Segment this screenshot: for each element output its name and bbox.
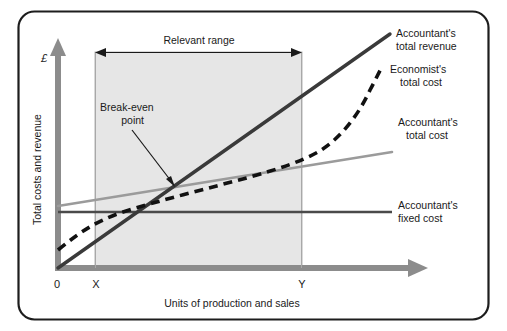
legend-accountant-total-cost-line2: total cost bbox=[406, 129, 448, 141]
legend-accountant-total-revenue-line2: total revenue bbox=[396, 40, 457, 52]
legend-accountant-fixed-cost-line1: Accountant's bbox=[398, 199, 458, 211]
x-axis-line bbox=[55, 265, 412, 271]
x-tick-label-0: 0 bbox=[54, 278, 60, 290]
relevant-range-band bbox=[95, 52, 302, 268]
break-even-label-line1: Break-even bbox=[100, 101, 154, 113]
y-axis-line bbox=[55, 52, 61, 271]
x-tick-label-y: Y bbox=[298, 278, 306, 290]
y-axis-title: Total costs and revenue bbox=[31, 114, 43, 225]
legend-accountant-fixed-cost-line2: fixed cost bbox=[398, 212, 442, 224]
break-even-label-line2: point bbox=[121, 114, 144, 126]
x-tick-label-x: X bbox=[92, 278, 100, 290]
legend-accountant-total-revenue-line1: Accountant's bbox=[396, 27, 456, 39]
break-even-chart: £ Total costs and revenue Units of produ… bbox=[0, 0, 507, 331]
legend-economist-total-cost-line2: total cost bbox=[400, 76, 442, 88]
relevant-range-label: Relevant range bbox=[163, 34, 234, 46]
y-axis-currency-symbol: £ bbox=[40, 52, 48, 64]
figure-root: £ Total costs and revenue Units of produ… bbox=[0, 0, 507, 331]
legend-economist-total-cost-line1: Economist's bbox=[390, 63, 446, 75]
x-axis-title: Units of production and sales bbox=[164, 297, 299, 309]
legend-accountant-total-cost-line1: Accountant's bbox=[398, 116, 458, 128]
